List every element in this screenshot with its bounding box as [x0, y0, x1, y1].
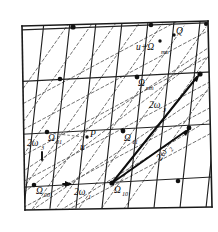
node-far-right-top [204, 22, 208, 26]
node-top-left [58, 77, 63, 82]
label-omega-mn-sub: mn [146, 84, 154, 91]
label-omega-10-base: Ω [114, 185, 121, 195]
label-two-omega-3-arrow-sub: 3 [162, 106, 166, 113]
point-u-plus-omega-dot [158, 39, 161, 42]
label-vector-u: u [80, 142, 85, 152]
label-omega-01-sub: 01 [56, 138, 62, 145]
label-two-omega-1-base: 2ω [74, 187, 86, 197]
label-omega-mn-base: Ω [138, 78, 145, 88]
point-p-dot [85, 135, 88, 138]
label-two-omega-1-sub: 1 [88, 193, 91, 200]
node-top-upper [70, 24, 75, 29]
label-point-p: P [89, 129, 96, 139]
label-u-plus-omega-mn-sub: mn [161, 48, 169, 55]
lattice-svg: Ω 00 Ω 01 Ω 10 Ω 11 Ω mn u+Ω mn Q [0, 0, 218, 232]
label-omega-00-base: Ω [36, 186, 43, 196]
period-lattice-figure: Ω 00 Ω 01 Ω 10 Ω 11 Ω mn u+Ω mn Q [0, 0, 218, 232]
label-omega-11-base: Ω [124, 133, 131, 143]
label-omega-00-sub: 00 [44, 191, 51, 198]
label-point-q: Q [176, 26, 183, 36]
label-u-plus-omega-mn-prefix: u+Ω [136, 42, 154, 52]
node-bottom-right [176, 179, 181, 184]
label-omega-11-sub: 11 [132, 138, 138, 145]
node-mid-upper [149, 23, 154, 28]
label-two-omega-3-arrow-base: 2ω [149, 100, 161, 110]
label-two-omega-3-left-sub: 3 [40, 144, 44, 151]
label-two-omega-3-left-base: 2ω [27, 138, 39, 148]
label-omega-01-base: Ω [48, 133, 55, 143]
label-omega-10-sub: 10 [122, 190, 129, 197]
